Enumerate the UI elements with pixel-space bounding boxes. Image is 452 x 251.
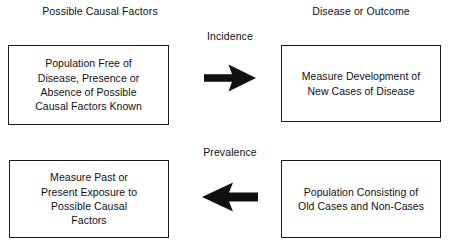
box-measure-past-or-present-exposure: Measure Past or Present Exposure to Poss… <box>9 160 169 238</box>
box-measure-development-of-new-cases-text: Measure Development of New Cases of Dise… <box>296 69 426 98</box>
box-measure-development-of-new-cases: Measure Development of New Cases of Dise… <box>281 45 441 122</box>
box-population-consisting-of-old-cases: Population Consisting of Old Cases and N… <box>281 160 441 238</box>
arrow-right-icon <box>204 63 256 93</box>
box-population-free-of-disease-text: Population Free of Disease, Presence or … <box>29 56 148 114</box>
causal-study-design-diagram: Possible Causal Factors Disease or Outco… <box>0 0 452 251</box>
arrow-label-incidence: Incidence <box>185 29 275 43</box>
box-measure-past-or-present-exposure-text: Measure Past or Present Exposure to Poss… <box>35 170 143 228</box>
column-header-possible-causal-factors: Possible Causal Factors <box>30 4 170 18</box>
arrow-left-icon <box>202 181 258 213</box>
box-population-consisting-of-old-cases-text: Population Consisting of Old Cases and N… <box>292 185 430 214</box>
arrow-label-prevalence: Prevalence <box>182 145 278 159</box>
box-population-free-of-disease: Population Free of Disease, Presence or … <box>8 45 169 125</box>
column-header-disease-or-outcome: Disease or Outcome <box>281 4 441 18</box>
